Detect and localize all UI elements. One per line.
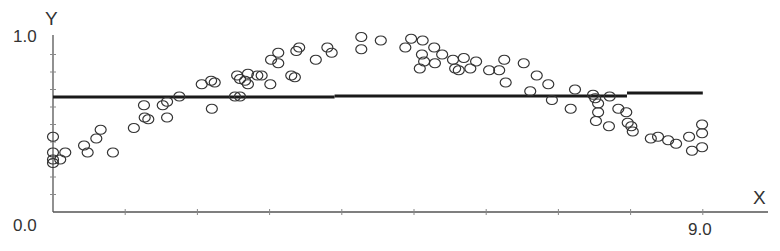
data-point-marker [500, 78, 511, 87]
data-point-marker [494, 66, 505, 75]
data-point-marker [697, 120, 708, 129]
data-point-marker [310, 55, 321, 64]
data-point-marker [95, 125, 106, 134]
data-point-marker [143, 115, 154, 124]
y-axis-label: Y [45, 9, 58, 28]
data-point-marker [518, 59, 529, 68]
data-point-marker [400, 43, 411, 52]
data-point-marker [684, 132, 695, 141]
data-point-marker [645, 134, 656, 143]
data-point-marker [565, 104, 576, 113]
data-point-marker [590, 117, 601, 126]
data-point-marker [128, 124, 139, 133]
data-point-marker [593, 108, 604, 117]
data-point-marker [627, 127, 638, 136]
data-point-marker [91, 134, 102, 143]
data-point-marker [429, 43, 440, 52]
data-point-marker [107, 148, 118, 157]
data-point-marker [206, 104, 217, 113]
data-point-marker [697, 129, 708, 138]
data-point-marker [458, 54, 469, 63]
data-point-marker [603, 122, 614, 131]
y-max-label: 1.0 [13, 28, 37, 45]
data-point-marker [138, 101, 149, 110]
data-point-marker [375, 36, 386, 45]
data-point-marker [686, 146, 697, 155]
data-point-marker [417, 36, 428, 45]
data-point-marker [406, 34, 417, 43]
data-point-marker [453, 66, 464, 75]
data-point-marker [593, 99, 604, 108]
data-point-marker [356, 45, 367, 54]
data-point-marker [471, 57, 482, 66]
data-point-marker [447, 55, 458, 64]
data-point-marker [525, 87, 536, 96]
data-point-marker [356, 33, 367, 42]
x-axis-label: X [753, 188, 766, 207]
data-point-marker [209, 78, 220, 87]
y-min-label: 0.0 [13, 217, 37, 234]
data-point-marker [289, 73, 300, 82]
data-point-marker [543, 80, 554, 89]
scatter-plot [0, 0, 780, 251]
data-point-marker [484, 66, 495, 75]
data-point-marker [429, 59, 440, 68]
data-point-marker [162, 113, 173, 122]
data-point-marker [697, 143, 708, 152]
data-point-marker [570, 85, 581, 94]
data-point-marker [653, 132, 664, 141]
data-point-marker [414, 64, 425, 73]
data-point-marker [531, 71, 542, 80]
x-tick-label-9: 9.0 [688, 221, 712, 238]
data-point-marker [437, 50, 448, 59]
data-point-marker [60, 148, 71, 157]
data-point-marker [265, 80, 276, 89]
data-point-marker [273, 48, 284, 57]
data-point-marker [499, 55, 510, 64]
